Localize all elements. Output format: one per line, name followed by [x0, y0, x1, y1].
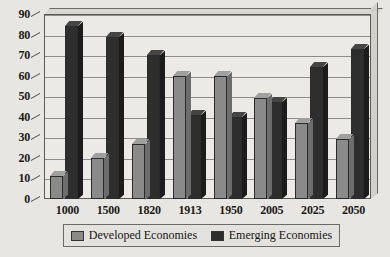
bar-side-face: [349, 135, 354, 199]
bar-side-face: [201, 111, 206, 199]
y-axis-tick-label: 0: [24, 192, 30, 207]
bar-front-face: [91, 158, 104, 199]
legend-label-developed: Developed Economies: [89, 228, 197, 243]
bar-side-face: [308, 119, 313, 199]
bar-developed-1950: [214, 76, 227, 199]
bar-side-face: [242, 113, 247, 199]
bar-developed-1913: [173, 76, 186, 199]
y-axis-tick-mark: [31, 73, 40, 79]
y-axis: 0102030405060708090: [0, 14, 40, 199]
chart-legend: Developed Economies Emerging Economies: [63, 224, 340, 247]
bar-side-face: [282, 98, 287, 199]
y-axis-tick-label: 90: [19, 7, 30, 22]
bar-developed-2005: [254, 98, 267, 199]
x-axis-tick-label: 2050: [342, 203, 365, 218]
x-axis-tick-label: 1913: [178, 203, 201, 218]
legend-swatch-emerging-icon: [211, 231, 224, 241]
x-axis-tick-label: 1000: [56, 203, 79, 218]
bar-group: [289, 14, 330, 199]
y-axis-tick-label: 60: [19, 68, 30, 83]
x-axis-tick-label: 1820: [138, 203, 161, 218]
y-axis-tick-mark: [31, 114, 40, 120]
bar-developed-1500: [91, 158, 104, 199]
y-axis-tick-label: 10: [19, 171, 30, 186]
bar-front-face: [336, 139, 349, 199]
bar-group: [330, 14, 371, 199]
x-axis-tick-label: 2025: [301, 203, 324, 218]
bar-group: [167, 14, 208, 199]
y-axis-tick-label: 50: [19, 89, 30, 104]
y-axis-tick-label: 30: [19, 130, 30, 145]
y-axis-tick-mark: [31, 175, 40, 181]
bar-front-face: [50, 176, 63, 199]
y-axis-tick-label: 80: [19, 27, 30, 42]
bar-side-face: [267, 94, 272, 199]
bar-side-face: [104, 154, 109, 199]
bar-group: [126, 14, 167, 199]
y-axis-tick-label: 20: [19, 150, 30, 165]
bar-developed-1000: [50, 176, 63, 199]
bar-developed-2025: [295, 123, 308, 199]
bar-side-face: [186, 71, 191, 199]
bar-side-face: [323, 63, 328, 199]
plot-frame-depth-right: [371, 2, 378, 199]
bar-side-face: [227, 71, 232, 199]
bar-developed-1820: [132, 144, 145, 200]
bar-side-face: [63, 172, 68, 199]
bar-side-face: [119, 32, 124, 199]
bar-side-face: [364, 45, 369, 199]
bar-chart: 0102030405060708090 10001500182019131950…: [0, 0, 390, 257]
y-axis-tick-label: 70: [19, 48, 30, 63]
bar-group: [208, 14, 249, 199]
bar-front-face: [254, 98, 267, 199]
y-axis-tick-mark: [31, 93, 40, 99]
x-axis-tick-label: 1500: [97, 203, 120, 218]
y-axis-tick-mark: [31, 52, 40, 58]
bar-group: [248, 14, 289, 199]
bar-front-face: [214, 76, 227, 199]
bar-group: [85, 14, 126, 199]
bar-side-face: [160, 51, 165, 199]
legend-item-emerging: Emerging Economies: [211, 228, 332, 243]
bar-side-face: [145, 139, 150, 199]
bar-front-face: [132, 144, 145, 200]
y-axis-tick-label: 40: [19, 109, 30, 124]
bar-group: [44, 14, 85, 199]
y-axis-tick-mark: [31, 196, 40, 202]
x-axis-tick-label: 1950: [219, 203, 242, 218]
bar-developed-2050: [336, 139, 349, 199]
legend-item-developed: Developed Economies: [71, 228, 197, 243]
bar-front-face: [295, 123, 308, 199]
x-axis: 10001500182019131950200520252050: [44, 203, 377, 221]
legend-label-emerging: Emerging Economies: [229, 228, 332, 243]
y-axis-tick-mark: [31, 11, 40, 17]
y-axis-tick-mark: [31, 134, 40, 140]
y-axis-tick-mark: [31, 31, 40, 37]
legend-swatch-developed-icon: [71, 231, 84, 241]
bar-front-face: [173, 76, 186, 199]
y-axis-tick-mark: [31, 155, 40, 161]
x-axis-tick-label: 2005: [260, 203, 283, 218]
bar-side-face: [78, 22, 83, 199]
bars-layer: [44, 14, 371, 199]
